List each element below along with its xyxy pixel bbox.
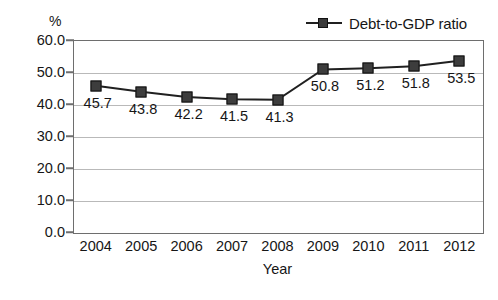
chart-legend: Debt-to-GDP ratio bbox=[306, 13, 467, 33]
data-point-label: 50.8 bbox=[311, 78, 339, 94]
data-point-marker bbox=[227, 94, 238, 105]
y-axis-tick-mark bbox=[66, 167, 74, 169]
x-axis-tick-label: 2008 bbox=[261, 238, 293, 254]
y-axis-tick-label: 40.0 bbox=[5, 96, 65, 112]
data-point-label: 51.2 bbox=[356, 77, 384, 93]
data-point-label: 45.7 bbox=[84, 95, 112, 111]
x-axis-tick-label: 2006 bbox=[170, 238, 202, 254]
data-point-marker bbox=[454, 55, 465, 66]
legend-label-debt-to-gdp-ratio: Debt-to-GDP ratio bbox=[349, 15, 467, 32]
data-point-label: 41.3 bbox=[265, 109, 293, 125]
x-axis-tick-label: 2010 bbox=[352, 238, 384, 254]
plot-area bbox=[73, 40, 484, 234]
x-axis-tick-label: 2012 bbox=[443, 238, 475, 254]
data-point-marker bbox=[272, 94, 283, 105]
data-point-label: 53.5 bbox=[447, 70, 475, 86]
y-axis-tick-mark bbox=[66, 231, 74, 233]
x-axis-tick-label: 2011 bbox=[398, 238, 429, 254]
y-axis-tick-label: 10.0 bbox=[5, 192, 65, 208]
data-point-marker bbox=[181, 91, 192, 102]
y-axis-tick-label: 60.0 bbox=[5, 32, 65, 48]
gridline bbox=[74, 73, 483, 74]
y-axis-tick-label: 20.0 bbox=[5, 160, 65, 176]
x-axis-tick-label: 2007 bbox=[216, 238, 248, 254]
x-axis-title: Year bbox=[263, 261, 292, 277]
data-point-label: 42.2 bbox=[174, 106, 202, 122]
data-point-marker bbox=[317, 64, 328, 75]
chart-container: Debt-to-GDP ratio % 0.010.020.030.040.05… bbox=[0, 0, 498, 300]
gridline bbox=[74, 169, 483, 170]
y-axis-tick-label: 50.0 bbox=[5, 64, 65, 80]
x-axis-tick-label: 2009 bbox=[307, 238, 339, 254]
y-axis-tick-label: 30.0 bbox=[5, 128, 65, 144]
x-axis-tick-label: 2004 bbox=[80, 238, 112, 254]
data-point-label: 43.8 bbox=[129, 101, 157, 117]
y-axis-tick-mark bbox=[66, 199, 74, 201]
y-axis-tick-mark bbox=[66, 135, 74, 137]
data-point-marker bbox=[90, 80, 101, 91]
y-axis-tick-mark bbox=[66, 71, 74, 73]
x-axis-tick-label: 2005 bbox=[125, 238, 157, 254]
data-point-label: 41.5 bbox=[220, 108, 248, 124]
legend-marker-icon bbox=[306, 17, 342, 29]
data-point-marker bbox=[408, 61, 419, 72]
gridline bbox=[74, 137, 483, 138]
y-axis-tick-label: 0.0 bbox=[5, 224, 65, 240]
data-point-label: 51.8 bbox=[402, 75, 430, 91]
y-axis-unit-label: % bbox=[49, 13, 61, 29]
y-axis-tick-mark bbox=[66, 39, 74, 41]
gridline bbox=[74, 201, 483, 202]
y-axis-tick-mark bbox=[66, 103, 74, 105]
data-point-marker bbox=[363, 63, 374, 74]
data-point-marker bbox=[136, 86, 147, 97]
